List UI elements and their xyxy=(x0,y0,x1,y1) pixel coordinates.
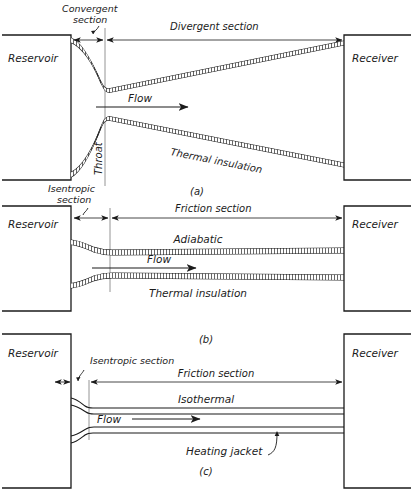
panel-a-lower-wall xyxy=(71,117,344,178)
panel-b-lower-wall xyxy=(71,273,344,288)
panel-c-heating-jacket-leader xyxy=(268,433,277,455)
panel-c-isothermal-label: Isothermal xyxy=(178,393,234,405)
panel-b-flow-label: Flow xyxy=(147,253,171,265)
panel-a-upper-wall xyxy=(71,38,344,93)
panel-a-convergent-leader xyxy=(93,26,99,34)
figure-canvas: Reservoir Receiver Convergent section xyxy=(0,0,413,498)
panel-a-receiver-label: Receiver xyxy=(352,52,399,64)
panel-c-receiver-label: Receiver xyxy=(352,347,399,359)
panel-b-friction-section-label: Friction section xyxy=(175,203,252,214)
panel-b-thermal-insulation-label: Thermal insulation xyxy=(149,287,247,299)
panel-c-isentropic-leader-arrow xyxy=(76,377,81,381)
panel-b-caption: (b) xyxy=(199,334,213,345)
panel-b-reservoir-label: Reservoir xyxy=(8,218,59,230)
panel-a-convergent-section-label-2: section xyxy=(73,14,107,25)
panel-a-caption: (a) xyxy=(190,186,204,197)
panel-a: Reservoir Receiver Convergent section xyxy=(2,3,411,197)
panel-c-friction-section-label: Friction section xyxy=(178,368,255,379)
panel-b-isentropic-section-label: Isentropic xyxy=(48,183,96,194)
panel-c-flow-label: Flow xyxy=(97,413,121,425)
panel-a-convergent-section-label: Convergent xyxy=(62,3,119,14)
panel-b-isentropic-section-label-2: section xyxy=(57,194,91,205)
panel-a-divergent-section-label: Divergent section xyxy=(170,21,259,32)
panel-b-adiabatic-label: Adiabatic xyxy=(172,233,222,245)
panel-a-thermal-insulation-label: Thermal insulation xyxy=(170,146,264,175)
panel-a-convergent-leader-arrow xyxy=(91,31,96,35)
panel-c-reservoir-label: Reservoir xyxy=(8,347,59,359)
panel-c: Reservoir Receiver Isentropic section Fr… xyxy=(2,334,411,488)
panel-b-isentropic-leader xyxy=(83,208,88,215)
panel-b-receiver-label: Receiver xyxy=(352,218,399,230)
panel-b: Isentropic section Reservoir Receiver Fr… xyxy=(2,183,411,345)
panel-c-heating-jacket-label: Heating jacket xyxy=(186,445,263,457)
panel-a-flow-label: Flow xyxy=(128,92,152,104)
panel-c-caption: (c) xyxy=(199,466,212,477)
panel-a-throat-label: Throat xyxy=(93,141,104,175)
panel-a-reservoir-label: Reservoir xyxy=(8,52,59,64)
panel-c-isentropic-section-label: Isentropic section xyxy=(90,355,174,366)
panel-c-lower-wall xyxy=(71,427,344,443)
